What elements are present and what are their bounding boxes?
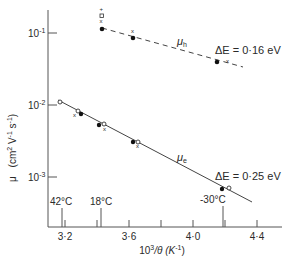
mu-h-points: x + x x <box>100 6 230 64</box>
x-tick-label-4.0: 4·0 <box>186 231 201 242</box>
data-point-open <box>227 186 231 190</box>
temp-label-minus30c: -30°C <box>200 194 226 205</box>
x-tick-labels: 3·2 3·6 4·0 4·4 <box>58 231 265 242</box>
x-axis-label: 103/θ (K-1) <box>139 244 185 256</box>
data-point-filled <box>220 187 224 191</box>
mu-h-label: μh <box>176 35 187 48</box>
temp-label-42c: 42°C <box>50 196 72 207</box>
data-point-filled <box>215 60 220 65</box>
mobility-arrhenius-chart: 10-1 10-2 10-3 μ (cm2 V-1 s-1) 3·2 3·6 4… <box>0 0 289 259</box>
mu-e-label: μe <box>176 151 187 164</box>
delta-e-e-label: ΔE = 0·25 eV <box>215 170 281 182</box>
data-point-filled <box>131 36 136 41</box>
delta-e-h-label: ΔE = 0·16 eV <box>215 44 281 56</box>
y-tick-label-1e-3: 10-3 <box>28 171 45 183</box>
data-point-open-square <box>100 14 104 18</box>
data-point-filled <box>131 140 135 144</box>
data-point-filled <box>100 27 105 32</box>
x-tick-label-3.2: 3·2 <box>58 231 73 242</box>
y-ticks <box>48 33 57 177</box>
data-point-open <box>76 109 80 113</box>
data-point-cross: x <box>100 18 103 24</box>
temperature-markers <box>62 206 223 227</box>
data-point-cross: x <box>131 28 134 34</box>
x-ticks <box>65 220 257 227</box>
data-point-open <box>58 100 62 104</box>
x-tick-label-4.4: 4·4 <box>250 231 265 242</box>
svg-text:μ (cm2 V-1 s-1): μ (cm2 V-1 s-1) <box>6 114 18 182</box>
data-point-cross: x <box>103 126 106 132</box>
y-tick-label-1e-2: 10-2 <box>28 99 45 111</box>
data-point-filled <box>97 123 101 127</box>
data-point-cross: x <box>226 58 229 64</box>
y-tick-label-1e-1: 10-1 <box>28 27 45 39</box>
mu-e-fit-line <box>58 100 252 202</box>
y-tick-labels: 10-1 10-2 10-3 <box>28 27 45 183</box>
data-point-filled <box>79 112 83 116</box>
temp-label-18c: 18°C <box>90 196 112 207</box>
axes <box>48 10 282 227</box>
data-point-cross: x <box>136 143 139 149</box>
y-axis-label: μ (cm2 V-1 s-1) <box>6 114 18 182</box>
x-tick-label-3.6: 3·6 <box>122 231 137 242</box>
data-point-cross: x <box>73 112 76 118</box>
data-point-plus: + <box>100 6 104 12</box>
